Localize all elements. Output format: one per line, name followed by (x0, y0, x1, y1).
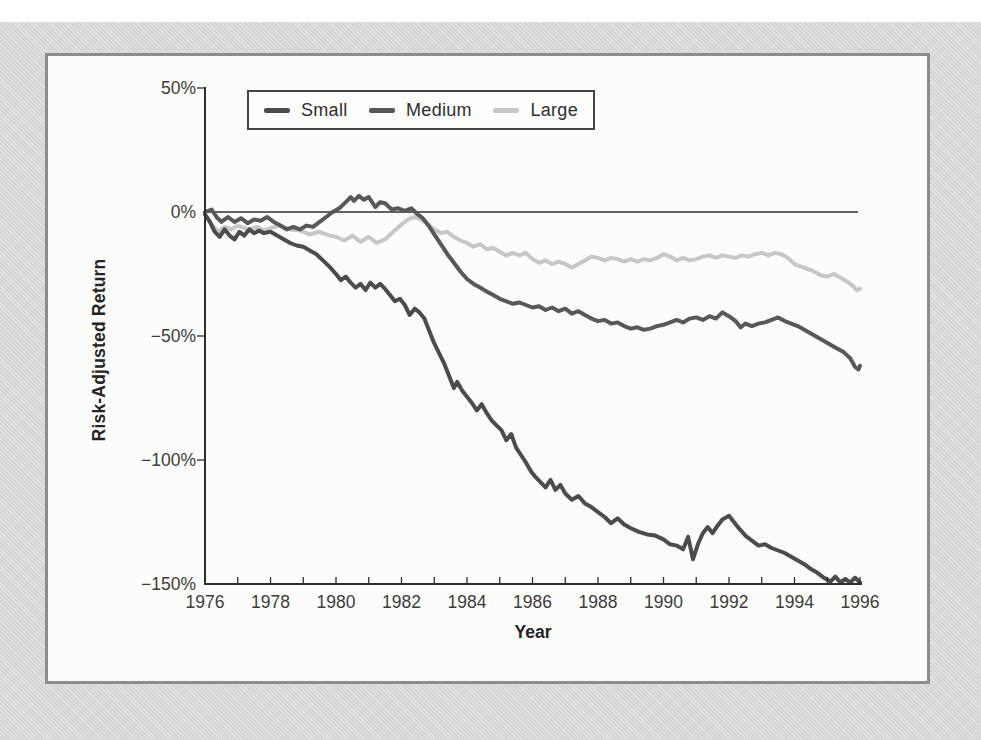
y-axis-title: Risk-Adjusted Return (89, 259, 110, 442)
chart-legend: Small Medium Large (247, 90, 595, 130)
x-axis-title: Year (515, 622, 552, 643)
legend-label-medium: Medium (406, 100, 472, 121)
large-series-swatch-icon (493, 108, 519, 113)
chart-frame (45, 53, 930, 684)
legend-label-small: Small (301, 100, 348, 121)
legend-item-small: Small (264, 100, 348, 121)
legend-label-large: Large (530, 100, 578, 121)
legend-item-medium: Medium (369, 100, 472, 121)
medium-series-swatch-icon (369, 108, 395, 113)
small-series-swatch-icon (264, 108, 290, 113)
legend-item-large: Large (493, 100, 578, 121)
scanned-chart-page: 1976197819801982198419861988199019921994… (0, 0, 981, 740)
